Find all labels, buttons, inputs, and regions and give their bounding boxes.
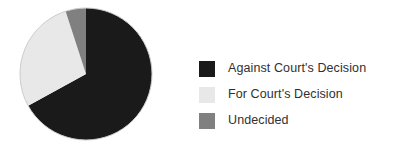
legend-item-for-court-decision[interactable]: For Court's Decision [199,86,366,103]
legend-label-against: Against Court's Decision [228,60,366,77]
legend-label-for: For Court's Decision [228,86,343,103]
legend-swatch-against [199,61,215,77]
legend-item-undecided[interactable]: Undecided [199,112,366,129]
pie-svg [18,6,154,142]
pie-chart-figure: Against Court's Decision For Court's Dec… [0,0,397,161]
pie-slices [20,8,152,140]
chart-legend: Against Court's Decision For Court's Dec… [199,60,366,129]
legend-swatch-for [199,87,215,103]
pie-chart-graphic [18,6,154,142]
legend-label-undecided: Undecided [228,112,289,129]
legend-swatch-undecided [199,113,215,129]
legend-item-against-court-decision[interactable]: Against Court's Decision [199,60,366,77]
